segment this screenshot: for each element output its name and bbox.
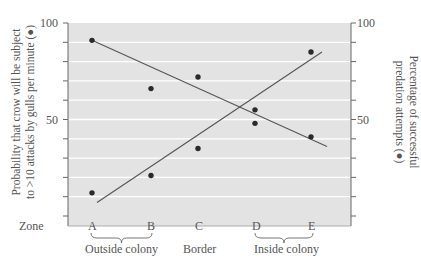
- data-point-predation: [252, 107, 257, 112]
- data-point-attacks: [195, 146, 200, 151]
- data-point-predation: [89, 38, 94, 43]
- right-tick-100: 100: [357, 16, 375, 31]
- right-axis-label-line1: Percentage of successful: [407, 22, 421, 202]
- data-point-attacks: [308, 49, 313, 54]
- left-axis-label-line1: Probability that crow will be subject: [9, 0, 23, 232]
- zone-a: A: [88, 219, 97, 234]
- data-point-attacks: [252, 121, 257, 126]
- data-point-attacks: [89, 190, 94, 195]
- data-point-attacks: [148, 173, 153, 178]
- group-outside-colony: Outside colony: [85, 242, 158, 257]
- zone-d: D: [252, 219, 261, 234]
- left-axis-label: Probability that crow will be subject to…: [9, 0, 37, 232]
- data-point-predation: [195, 74, 200, 79]
- right-axis-label-line2: predation attempts (●): [393, 22, 407, 202]
- zone-e: E: [308, 219, 315, 234]
- group-border: Border: [183, 242, 216, 257]
- right-tick-50: 50: [357, 113, 369, 128]
- left-axis-label-line2: to >10 attacks by gulls per minute (●): [23, 0, 37, 232]
- data-point-predation: [148, 86, 153, 91]
- data-point-predation: [308, 134, 313, 139]
- left-tick-100: 100: [40, 16, 58, 31]
- right-axis-label: Percentage of successful predation attem…: [393, 22, 421, 202]
- zone-b: B: [147, 219, 155, 234]
- zone-c: C: [195, 219, 203, 234]
- left-tick-50: 50: [46, 113, 58, 128]
- group-inside-colony: Inside colony: [254, 242, 319, 257]
- plot-area: [68, 23, 351, 226]
- zone-axis-label: Zone: [19, 219, 44, 234]
